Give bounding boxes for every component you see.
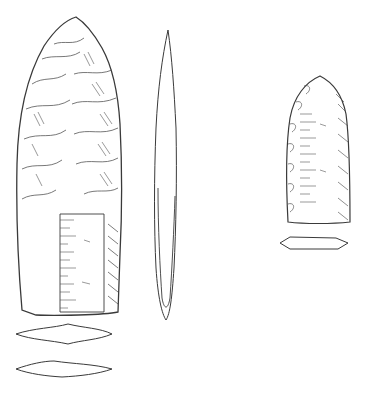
large-point-cross-section-bottom [14,358,114,380]
figure-caption-clipped [70,391,370,397]
large-point-cross-section-top [14,322,114,346]
large-point-profile-drawing [148,28,184,324]
small-point-cross-section [278,234,350,252]
large-point-face-drawing [14,14,126,316]
small-point-face-drawing [282,74,356,226]
